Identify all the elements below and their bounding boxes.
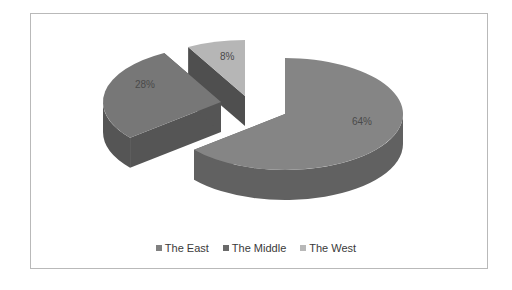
chart-legend: The East The Middle The West <box>0 242 512 254</box>
legend-item-west: The West <box>300 242 356 254</box>
legend-label-west: The West <box>309 242 356 254</box>
data-label-west: 8% <box>220 51 235 62</box>
data-label-east: 64% <box>352 116 372 127</box>
legend-swatch-east <box>156 245 162 251</box>
data-label-middle: 28% <box>135 79 155 90</box>
legend-label-east: The East <box>165 242 209 254</box>
legend-item-east: The East <box>156 242 209 254</box>
legend-swatch-west <box>300 245 306 251</box>
legend-label-middle: The Middle <box>232 242 286 254</box>
legend-swatch-middle <box>223 245 229 251</box>
legend-item-middle: The Middle <box>223 242 286 254</box>
